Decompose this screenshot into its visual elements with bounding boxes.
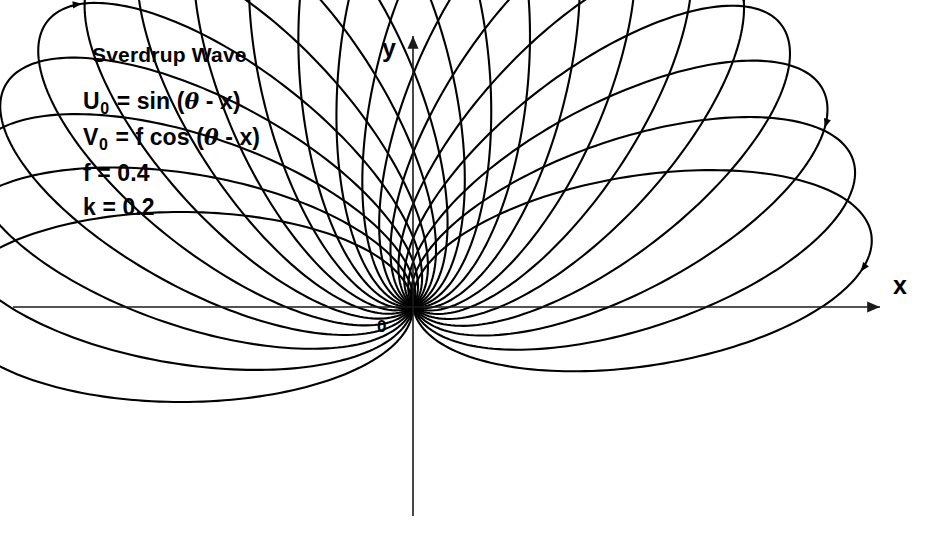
v0-rhs-post: - x) xyxy=(219,124,260,150)
rotation-arrowhead xyxy=(72,0,82,8)
origin-label: 0 xyxy=(377,318,386,335)
v0-subscript: 0 xyxy=(98,136,109,153)
rotation-arrowhead xyxy=(821,118,831,129)
hodograph-plot xyxy=(0,0,934,551)
y-axis-label: y xyxy=(382,36,396,61)
rotation-arrowhead xyxy=(740,0,747,4)
v0-rhs-pre: = f cos ( xyxy=(109,124,204,150)
hodograph-ellipse xyxy=(404,6,790,326)
equation-v0: V0 = f cos (θ - x) xyxy=(83,126,260,153)
u0-rhs-pre: = sin ( xyxy=(110,88,184,114)
u0-symbol: U xyxy=(83,88,100,114)
parameter-k: k = 0.2 xyxy=(83,196,155,219)
theta-symbol-v: θ xyxy=(204,124,219,150)
u0-rhs-post: - x) xyxy=(199,88,240,114)
figure-title: Sverdrup Wave xyxy=(92,44,247,65)
parameter-f: f = 0.4 xyxy=(83,162,150,185)
hodograph-ellipse xyxy=(408,61,827,336)
u0-subscript: 0 xyxy=(100,100,111,117)
hodograph-ellipse xyxy=(336,0,530,307)
theta-symbol-u: θ xyxy=(185,88,200,114)
sverdrup-wave-figure: Sverdrup Wave U0 = sin (θ - x) V0 = f co… xyxy=(0,0,934,551)
hodograph-ellipse xyxy=(0,168,414,370)
x-axis-label: x xyxy=(893,273,907,298)
v0-symbol: V xyxy=(83,124,98,150)
equation-u0: U0 = sin (θ - x) xyxy=(83,90,241,117)
